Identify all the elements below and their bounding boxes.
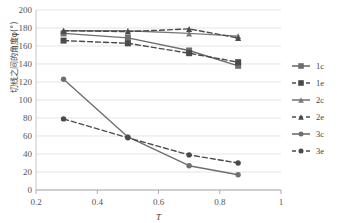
x-tick-marks xyxy=(36,190,281,194)
series-line xyxy=(64,119,239,163)
legend-item-3c[interactable]: 3c xyxy=(292,129,324,139)
data-point-marker xyxy=(61,116,66,121)
data-point-marker xyxy=(186,50,192,56)
series-1e xyxy=(61,38,242,66)
legend-item-1e[interactable]: 1e xyxy=(292,78,324,88)
chart-container: 切线之间的角度φ(°) 020406080100120140160180200 … xyxy=(0,0,343,223)
data-point-marker xyxy=(61,38,67,44)
y-tick-label: 160 xyxy=(19,41,33,51)
x-axis-title: T̄ xyxy=(156,212,162,222)
x-tick-label: 0.6 xyxy=(153,197,165,207)
x-axis-title-text: T̄ xyxy=(156,212,162,222)
x-tick-label: 0.4 xyxy=(92,197,104,207)
legend-label: 3e xyxy=(316,146,324,156)
series-line xyxy=(64,41,239,63)
line-chart-plot: 020406080100120140160180200 0.20.40.60.8… xyxy=(0,0,343,223)
legend-item-2e[interactable]: 2e xyxy=(292,112,324,122)
x-tick-label: 0.2 xyxy=(30,197,41,207)
data-point-marker xyxy=(186,163,191,168)
data-point-marker xyxy=(298,80,304,86)
data-point-marker xyxy=(298,63,304,69)
y-tick-label: 40 xyxy=(23,149,33,159)
legend-label: 3c xyxy=(316,129,324,139)
series-1c xyxy=(61,30,242,68)
data-point-marker xyxy=(299,132,304,137)
y-tick-label: 140 xyxy=(19,59,33,69)
y-tick-label: 200 xyxy=(19,5,33,15)
data-point-marker xyxy=(125,35,131,41)
legend-label: 2e xyxy=(316,112,324,122)
data-point-marker xyxy=(235,59,241,65)
legend-label: 1c xyxy=(316,61,324,71)
y-tick-label: 20 xyxy=(23,167,33,177)
chart-legend: 1c1e2c2e3c3e xyxy=(292,61,324,156)
data-point-marker xyxy=(125,135,130,140)
x-tick-labels: 0.20.40.60.81 xyxy=(30,197,283,207)
legend-item-3e[interactable]: 3e xyxy=(292,146,324,156)
legend-label: 2c xyxy=(316,95,324,105)
y-tick-labels: 020406080100120140160180200 xyxy=(19,5,33,195)
x-tick-label: 0.8 xyxy=(214,197,226,207)
gridlines xyxy=(36,10,281,190)
y-axis-title: 切线之间的角度φ(°) xyxy=(8,0,19,128)
y-tick-label: 100 xyxy=(19,95,33,105)
legend-item-2c[interactable]: 2c xyxy=(292,95,324,105)
data-point-marker xyxy=(125,40,131,46)
legend-label: 1e xyxy=(316,78,324,88)
series-2c xyxy=(61,28,242,39)
y-tick-label: 0 xyxy=(28,185,33,195)
y-tick-label: 120 xyxy=(19,77,33,87)
data-point-marker xyxy=(235,172,240,177)
y-tick-label: 180 xyxy=(19,23,33,33)
y-tick-label: 60 xyxy=(23,131,33,141)
series-line xyxy=(64,33,239,65)
series-3e xyxy=(61,116,241,165)
data-point-marker xyxy=(299,149,304,154)
data-series-layer xyxy=(61,26,242,178)
data-point-marker xyxy=(61,77,66,82)
data-point-marker xyxy=(186,152,191,157)
x-tick-label: 1 xyxy=(279,197,284,207)
y-tick-label: 80 xyxy=(23,113,33,123)
data-point-marker xyxy=(235,160,240,165)
series-3c xyxy=(61,77,241,178)
legend-item-1c[interactable]: 1c xyxy=(292,61,324,71)
